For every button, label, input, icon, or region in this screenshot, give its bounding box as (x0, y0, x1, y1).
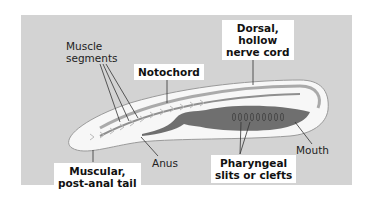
label-anus: Anus (152, 157, 178, 169)
label-pharyngeal-slits: Pharyngeal slits or clefts (211, 155, 296, 183)
label-notochord: Notochord (134, 64, 204, 80)
label-dorsal-nerve-cord: Dorsal, hollow nerve cord (222, 20, 294, 60)
label-mouth: Mouth (296, 144, 329, 156)
label-muscle-segments: Muscle segments (66, 40, 118, 64)
label-muscular-tail: Muscular, post-anal tail (54, 163, 141, 191)
